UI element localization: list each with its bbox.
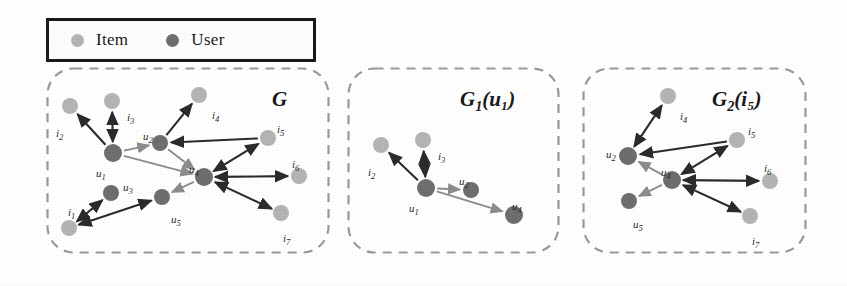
edge-u4-i5: [214, 144, 259, 171]
node-item-i4: [660, 88, 676, 104]
node-label-u2: u2: [143, 131, 153, 145]
edge-u1-i2: [389, 153, 418, 181]
node-item-i7: [273, 205, 289, 221]
edge-i7-u4: [215, 182, 272, 209]
node-label-u4: u4: [661, 167, 671, 181]
edge-u4-i5: [682, 146, 728, 174]
node-item-i5: [729, 132, 745, 148]
node-label-i4: i4: [212, 110, 219, 124]
nodes-group: [61, 87, 778, 236]
panel-title-panel-g1: G1(u₁): [460, 89, 515, 113]
node-label-i6: i6: [764, 163, 771, 177]
edge-i1-u5: [79, 201, 152, 225]
node-item-i5: [260, 130, 276, 146]
edge-u4-i6: [683, 180, 759, 181]
edge-u1-i3: [424, 151, 426, 177]
circle-icon: [71, 34, 84, 47]
node-label-i6: i6: [292, 159, 299, 173]
edge-u4-i6: [215, 176, 288, 177]
edge-i5-u2: [171, 138, 258, 142]
node-user-u2: [152, 135, 168, 151]
node-label-u2: u2: [606, 149, 616, 163]
panel-dashed-frames: [48, 69, 806, 253]
node-label-i5: i5: [748, 126, 755, 140]
legend-item-user: User: [166, 30, 224, 50]
node-item-i3: [104, 93, 120, 109]
node-item-i7: [742, 208, 758, 224]
edge-u1-i3: [112, 112, 113, 142]
legend-box: ItemUser: [46, 18, 316, 62]
node-user-u2: [619, 147, 637, 165]
panel-title-panel-g: G: [272, 89, 287, 110]
edge-i5-u2: [640, 141, 727, 154]
legend-label-item: Item: [96, 30, 128, 50]
circle-icon: [166, 34, 179, 47]
node-label-u1: u1: [96, 168, 106, 182]
node-label-i3: i3: [127, 112, 134, 126]
node-user-u1: [417, 179, 435, 197]
edge-u4-u5: [639, 185, 662, 196]
edge-u2-i4: [166, 104, 192, 135]
node-label-u3: u3: [123, 182, 133, 196]
node-label-u5: u5: [633, 219, 643, 233]
edge-u1-u4: [124, 156, 192, 174]
node-user-u1: [104, 144, 122, 162]
node-user-u5: [621, 193, 637, 209]
node-item-i1: [61, 220, 77, 236]
edge-u2-i4: [634, 105, 662, 146]
edge-u1-u2: [437, 188, 460, 189]
node-label-u1: u1: [409, 203, 419, 217]
node-label-i7: i7: [283, 233, 290, 247]
node-user-u5: [154, 189, 170, 205]
node-label-i7: i7: [752, 236, 759, 250]
panel-frame-panel-g1: [349, 69, 559, 253]
node-label-i1: i1: [68, 207, 75, 221]
panel-title-panel-g2: G2(i₅): [712, 89, 761, 113]
node-label-u5: u5: [171, 214, 181, 228]
node-item-i2: [62, 98, 78, 114]
edge-i7-u4: [683, 185, 741, 212]
node-label-u4: u4: [512, 201, 522, 215]
node-label-i3: i3: [438, 151, 445, 165]
legend-item-item: Item: [71, 30, 128, 50]
edge-u4-u5: [172, 182, 194, 192]
panel-frame-panel-g2: [584, 69, 806, 253]
node-label-u2: u2: [459, 176, 469, 190]
node-item-i4: [191, 87, 207, 103]
legend-label-user: User: [191, 30, 224, 50]
node-label-i2: i2: [368, 167, 375, 181]
node-label-i4: i4: [680, 111, 687, 125]
node-user-u3: [103, 185, 119, 201]
node-label-u4: u4: [189, 164, 199, 178]
edge-u1-i2: [78, 114, 106, 144]
node-label-i2: i2: [56, 128, 63, 142]
edge-u1-u2: [124, 145, 149, 150]
node-item-i3: [415, 132, 431, 148]
node-label-i5: i5: [277, 124, 284, 138]
node-item-i2: [373, 137, 389, 153]
edge-u4-u2: [639, 162, 662, 175]
figure-canvas: i2i3i4i5i6i7i1u1u2u3u4u5i2i3u1u2u4i4i5i6…: [0, 0, 847, 286]
